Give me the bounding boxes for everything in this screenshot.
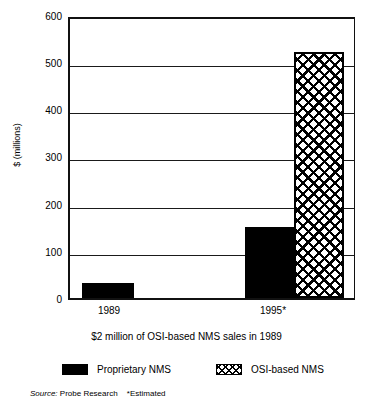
chart-legend: Proprietary NMS OSI-based NMS xyxy=(0,362,373,380)
x-tick-label-1995: 1995* xyxy=(238,305,308,316)
solid-black-swatch-icon xyxy=(62,364,88,375)
y-axis-title: $ (millions) xyxy=(12,95,22,195)
y-tick-label-600: 600 xyxy=(26,12,62,22)
source-label: Source: xyxy=(30,389,58,398)
y-tick-label-300: 300 xyxy=(26,153,62,163)
x-tick-label-1989: 1989 xyxy=(74,305,144,316)
y-tick-label-400: 400 xyxy=(26,106,62,116)
y-tick-label-200: 200 xyxy=(26,201,62,211)
legend-label-proprietary-nms: Proprietary NMS xyxy=(97,364,171,375)
source-note: Source: Probe Research *Estimated xyxy=(30,389,166,398)
legend-label-osi-based-nms: OSI-based NMS xyxy=(251,364,324,375)
crosshatch-swatch-icon xyxy=(216,364,242,375)
legend-item-osi-based-nms: OSI-based NMS xyxy=(216,362,324,376)
y-tick-label-100: 100 xyxy=(26,248,62,258)
bar-1995-osi-based-nms xyxy=(294,52,344,298)
bar-1989-proprietary-nms xyxy=(82,283,134,298)
source-text: Probe Research xyxy=(60,389,118,398)
bar-chart-figure: $ (millions) 600 500 400 300 200 100 0 1… xyxy=(0,0,373,407)
bar-1995-proprietary-nms xyxy=(245,227,294,298)
y-tick-label-0: 0 xyxy=(26,295,62,305)
y-tick-label-500: 500 xyxy=(26,59,62,69)
plot-area xyxy=(68,17,355,300)
legend-item-proprietary-nms: Proprietary NMS xyxy=(62,362,171,376)
chart-caption: $2 million of OSI-based NMS sales in 198… xyxy=(0,331,373,342)
estimated-note: *Estimated xyxy=(127,389,166,398)
